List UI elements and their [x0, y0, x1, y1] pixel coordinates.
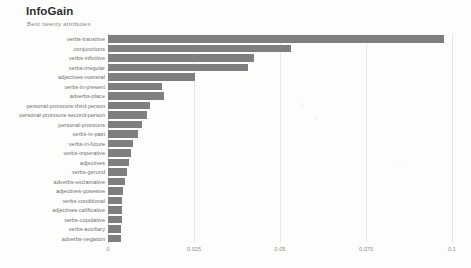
bar[interactable]: [108, 197, 122, 205]
bar[interactable]: [108, 168, 127, 176]
category-label: verbs-irregular: [69, 65, 105, 71]
bar[interactable]: [108, 149, 131, 157]
category-label: adjectives-posesive: [56, 188, 105, 194]
infogain-bar-chart: InfoGain Best twenty attributes 00.0250.…: [0, 0, 471, 268]
bar[interactable]: [108, 216, 122, 224]
x-axis-tick-label: 0.075: [359, 246, 373, 252]
category-label: adjectives-calificative: [52, 207, 105, 213]
category-label: personal-pronouns: [58, 122, 105, 128]
chart-title: InfoGain: [26, 5, 73, 17]
category-label: verbs-auxiliary: [69, 226, 105, 232]
bar[interactable]: [108, 225, 121, 233]
category-label: personal-pronouns-second-person: [19, 112, 105, 118]
x-axis-tick-label: 0.025: [187, 246, 201, 252]
bar[interactable]: [108, 92, 164, 100]
bar[interactable]: [108, 235, 121, 243]
bar[interactable]: [108, 102, 150, 110]
category-label: personal-pronouns-third-person: [26, 103, 105, 109]
bar[interactable]: [108, 187, 123, 195]
chart-subtitle: Best twenty attributes: [27, 20, 91, 27]
grid-line: [452, 34, 453, 243]
bar[interactable]: [108, 111, 147, 119]
category-label: verbs-imperative: [64, 150, 105, 156]
bar-row: [108, 234, 452, 244]
x-axis-tick-label: 0.1: [448, 246, 456, 252]
bar[interactable]: [108, 73, 195, 81]
category-label: verbs-gerund: [72, 169, 105, 175]
x-axis-tick-label: 0: [106, 246, 109, 252]
bar[interactable]: [108, 178, 125, 186]
x-axis-tick-label: 0.05: [275, 246, 286, 252]
category-label: verbs-infinitive: [69, 55, 105, 61]
bar[interactable]: [108, 83, 162, 91]
bar[interactable]: [108, 35, 444, 43]
category-label: verbs-conditional: [63, 198, 105, 204]
category-label: adverbs-place: [70, 93, 105, 99]
category-label: verbs-in-past: [73, 131, 105, 137]
category-label: conjunctions: [74, 46, 105, 52]
bar[interactable]: [108, 54, 254, 62]
plot-area: 00.0250.050.0750.1: [108, 34, 452, 243]
category-label: adjectives-numeral: [58, 74, 105, 80]
bar[interactable]: [108, 140, 133, 148]
bar[interactable]: [108, 64, 248, 72]
bar[interactable]: [108, 130, 138, 138]
bar[interactable]: [108, 206, 122, 214]
category-label: verbs-in-future: [69, 141, 105, 147]
category-label: adverbs-exclamative: [54, 179, 105, 185]
bar[interactable]: [108, 45, 291, 53]
category-label: verbs-in-present: [64, 84, 105, 90]
category-label: verbs-copulative: [64, 217, 105, 223]
category-label: adjectives: [80, 160, 105, 166]
category-label: adverbs-negation: [62, 236, 105, 242]
bar[interactable]: [108, 159, 129, 167]
category-label: verbs-transitive: [67, 36, 105, 42]
bar[interactable]: [108, 121, 142, 129]
